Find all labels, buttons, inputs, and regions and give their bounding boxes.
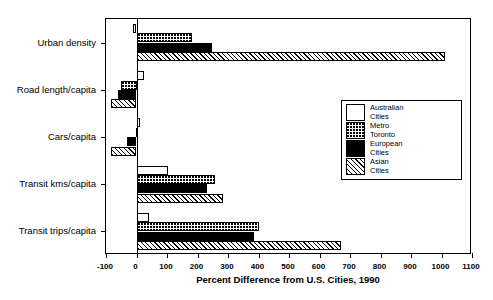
bar (137, 71, 145, 80)
y-axis-category-label: Road length/capita (0, 83, 96, 94)
x-axis-tick-label: 300 (220, 262, 233, 271)
bar (137, 232, 255, 241)
legend-swatch (346, 122, 365, 139)
y-axis-tick (101, 90, 106, 91)
x-axis-tick (350, 253, 351, 258)
bar (127, 137, 136, 146)
x-axis-tick (137, 253, 138, 258)
bar (136, 128, 138, 137)
y-axis-tick (101, 184, 106, 185)
legend-label: MetroToronto (370, 122, 395, 139)
bar (137, 166, 169, 175)
x-axis-title: Percent Difference from U.S. Cities, 199… (105, 274, 471, 285)
y-axis-category-label: Urban density (0, 36, 96, 47)
x-axis-tick (259, 253, 260, 258)
bar (111, 99, 136, 108)
y-axis-category-label: Cars/capita (0, 131, 96, 142)
x-axis-tick-label: 800 (373, 262, 386, 271)
bar (111, 147, 137, 156)
bar-chart: Urban densityRoad length/capitaCars/capi… (0, 0, 493, 300)
legend-swatch (346, 158, 365, 175)
bar (137, 213, 150, 222)
x-axis-tick-label: 200 (190, 262, 203, 271)
y-axis-tick (101, 231, 106, 232)
x-axis-tick-label: 1000 (432, 262, 450, 271)
x-axis-tick (167, 253, 168, 258)
legend-label: AsianCities (370, 158, 389, 175)
bar (137, 184, 208, 193)
x-axis-tick (381, 253, 382, 258)
x-axis-tick-label: 500 (281, 262, 294, 271)
bar (137, 33, 193, 42)
x-axis-tick-label: 0 (133, 262, 137, 271)
bar (133, 24, 136, 33)
x-axis-tick (320, 253, 321, 258)
x-axis-tick-label: 900 (403, 262, 416, 271)
legend-item: MetroToronto (346, 122, 458, 139)
bar (121, 81, 136, 90)
y-axis-category-label: Transit trips/capita (0, 225, 96, 236)
bar (137, 194, 223, 203)
x-axis-tick (442, 253, 443, 258)
legend-swatch (346, 104, 365, 121)
bar (137, 222, 259, 231)
legend-label: AustralianCities (370, 104, 403, 121)
x-axis-tick (198, 253, 199, 258)
x-axis-tick-label: 700 (342, 262, 355, 271)
x-axis-tick-label: -100 (97, 262, 113, 271)
legend-label: EuropeanCities (370, 140, 403, 157)
bar (137, 52, 445, 61)
bar (137, 43, 212, 52)
x-axis-tick-label: 400 (251, 262, 264, 271)
x-axis-tick (289, 253, 290, 258)
x-axis-tick-label: 1100 (462, 262, 479, 271)
legend-item: EuropeanCities (346, 140, 458, 157)
legend-swatch (346, 140, 365, 157)
bar (118, 90, 136, 99)
x-axis-tick (472, 253, 473, 258)
x-axis-tick (411, 253, 412, 258)
legend-item: AsianCities (346, 158, 458, 175)
y-axis-tick (101, 137, 106, 138)
x-axis-tick-label: 600 (312, 262, 325, 271)
y-axis-tick (101, 43, 106, 44)
x-axis-tick (106, 253, 107, 258)
chart-legend: AustralianCitiesMetroTorontoEuropeanCiti… (341, 100, 462, 180)
x-axis-tick-label: 100 (159, 262, 172, 271)
bar (137, 118, 141, 127)
y-axis-category-label: Transit kms/capita (0, 178, 96, 189)
bar (137, 241, 341, 250)
legend-item: AustralianCities (346, 104, 458, 121)
x-axis-tick (228, 253, 229, 258)
bar (137, 175, 216, 184)
